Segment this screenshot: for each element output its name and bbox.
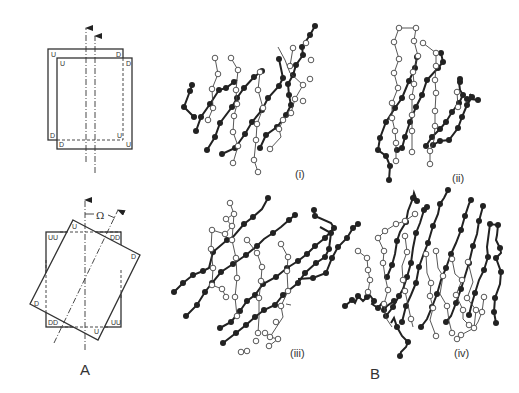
panel-a-bottom-diagram xyxy=(30,200,140,350)
subpanel-iii-label: (iii) xyxy=(290,347,305,359)
subpanel-iv-label: (iv) xyxy=(454,347,469,359)
corner-label: D xyxy=(34,300,39,307)
omega-angle-label: Ω xyxy=(96,210,104,221)
corner-label: U xyxy=(94,328,99,335)
subpanel-ii-molecular-chains: (ii) xyxy=(375,25,481,184)
subpanel-ii-label: (ii) xyxy=(452,172,464,184)
corner-label: UU xyxy=(48,234,58,241)
corner-label: U xyxy=(126,141,131,148)
corner-label: U xyxy=(72,223,77,230)
corner-label: U xyxy=(60,60,65,67)
subpanel-iii-molecular-chains: (iii) xyxy=(171,195,361,359)
subpanel-iv-molecular-chains: (iv) xyxy=(342,187,504,359)
panel-a-top-diagram xyxy=(48,28,132,173)
corner-label: U xyxy=(51,51,56,58)
corner-label: DD xyxy=(110,234,120,241)
corner-label: U xyxy=(117,132,122,139)
subpanel-i-molecular-chains: (i) xyxy=(181,23,318,180)
panel-b-label: B xyxy=(370,365,380,382)
corner-label: DD xyxy=(48,319,58,326)
corner-label: D xyxy=(131,253,136,260)
corner-label: UU xyxy=(111,319,121,326)
corner-label: D xyxy=(50,132,55,139)
panel-a-label: A xyxy=(80,361,90,378)
corner-label: D xyxy=(116,51,121,58)
subpanel-i-label: (i) xyxy=(295,168,305,180)
corner-label: D xyxy=(59,141,64,148)
figure-canvas: U D D U U D D U Ω UU DD DD UU U D D U xyxy=(0,0,519,393)
corner-label: D xyxy=(126,60,131,67)
